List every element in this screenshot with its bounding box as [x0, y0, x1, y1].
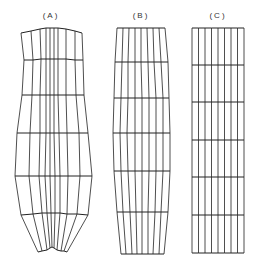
- panel-b-label: (B): [133, 11, 150, 20]
- mesh-column-line: [54, 28, 55, 248]
- mesh-diagram: [0, 0, 258, 267]
- panel-c-mesh: [192, 28, 244, 253]
- mesh-column-line: [45, 28, 50, 248]
- mesh-row-line: [21, 213, 88, 215]
- mesh-column-line: [50, 28, 52, 247]
- mesh-column-line: [57, 28, 60, 250]
- mesh-row-line: [38, 247, 67, 252]
- mesh-figure: (A) (B) (C): [0, 0, 258, 267]
- panel-a-mesh: [15, 28, 92, 252]
- panel-c-label: (C): [209, 11, 226, 20]
- mesh-row-line: [21, 28, 82, 33]
- mesh-column-line: [61, 29, 68, 251]
- panel-b-mesh: [113, 28, 170, 254]
- panel-a-label: (A): [43, 11, 60, 20]
